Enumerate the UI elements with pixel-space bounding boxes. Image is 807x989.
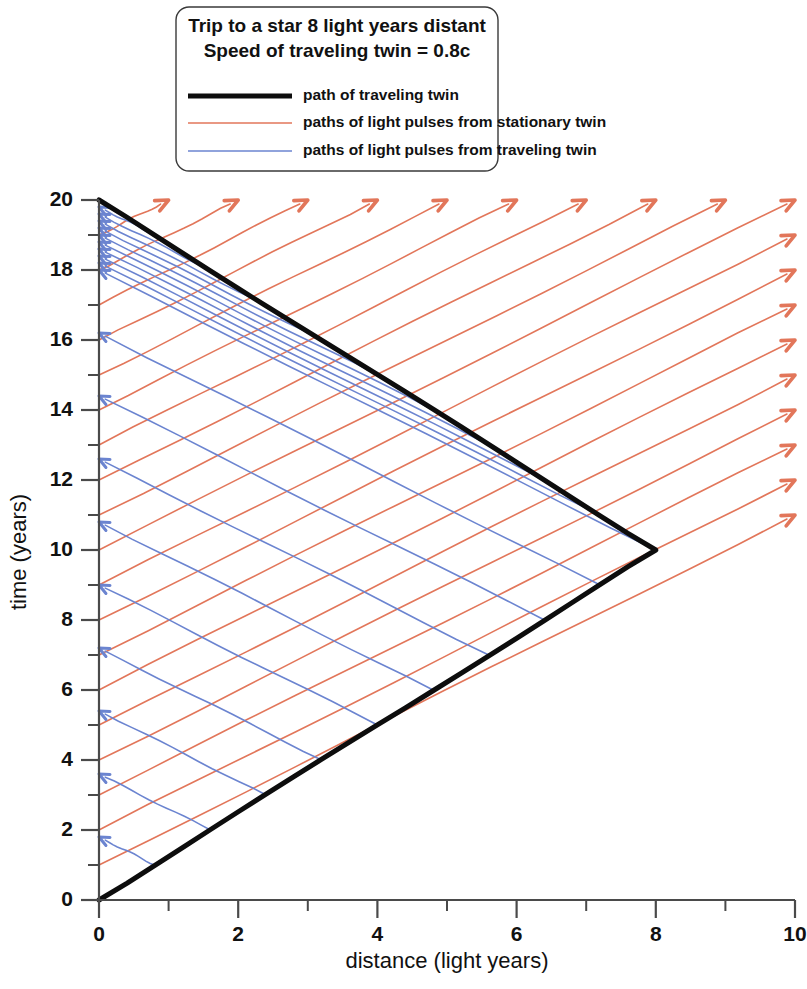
spacetime-diagram: Trip to a star 8 light years distant Spe… — [0, 0, 807, 989]
x-tick-label: 0 — [93, 922, 105, 945]
legend-label-stationary-pulses: paths of light pulses from stationary tw… — [303, 113, 606, 130]
y-tick-label: 8 — [61, 607, 73, 630]
y-axis-title: time (years) — [6, 494, 31, 610]
light-ray-stationary — [99, 204, 509, 410]
light-ray-stationary — [99, 449, 787, 795]
light-ray-stationary — [99, 484, 787, 830]
x-axis-title: distance (light years) — [346, 948, 549, 973]
y-tick-label: 10 — [50, 537, 73, 560]
light-ray-stationary — [99, 204, 787, 550]
light-ray-stationary — [99, 414, 787, 760]
axes: 024681012141618200246810 — [50, 187, 807, 946]
legend-box: Trip to a star 8 light years distant Spe… — [176, 7, 606, 171]
light-ray-traveling — [105, 525, 433, 690]
x-tick-label: 10 — [783, 922, 806, 945]
light-ray-traveling — [105, 714, 266, 795]
x-tick-label: 6 — [511, 922, 523, 945]
x-tick-label: 8 — [650, 922, 662, 945]
y-tick-label: 16 — [50, 327, 73, 350]
y-tick-label: 14 — [50, 397, 74, 420]
y-tick-label: 4 — [61, 747, 73, 770]
light-ray-stationary — [99, 309, 787, 655]
chart-title-line1: Trip to a star 8 light years distant — [188, 15, 486, 36]
light-ray-stationary — [99, 239, 787, 585]
light-ray-stationary — [99, 204, 717, 515]
light-ray-traveling — [105, 588, 377, 725]
light-ray-traveling — [105, 238, 377, 375]
light-ray-stationary — [99, 204, 648, 480]
light-ray-traveling — [105, 399, 544, 620]
light-ray-traveling — [105, 266, 600, 515]
y-tick-label: 20 — [50, 187, 73, 210]
x-tick-label: 4 — [372, 922, 384, 945]
legend-label-traveling-twin: path of traveling twin — [303, 86, 459, 103]
light-ray-traveling — [105, 336, 600, 585]
light-ray-traveling — [105, 273, 656, 550]
y-tick-label: 18 — [50, 257, 74, 280]
light-ray-stationary — [99, 519, 787, 865]
y-tick-label: 6 — [61, 677, 73, 700]
light-ray-traveling — [105, 777, 210, 830]
x-tick-label: 2 — [232, 922, 244, 945]
light-ray-traveling — [105, 840, 154, 865]
light-ray-traveling — [105, 245, 433, 410]
legend-label-traveling-pulses: paths of light pulses from traveling twi… — [303, 141, 597, 158]
y-tick-label: 2 — [61, 817, 73, 840]
light-ray-stationary-arrowhead — [155, 200, 169, 211]
light-ray-stationary — [99, 379, 787, 725]
y-tick-label: 0 — [61, 887, 73, 910]
chart-title-line2: Speed of traveling twin = 0.8c — [204, 40, 471, 61]
y-tick-label: 12 — [50, 467, 73, 490]
stationary-twin-light-pulses — [99, 200, 795, 865]
plot-area — [99, 200, 795, 900]
light-ray-stationary — [99, 204, 578, 445]
